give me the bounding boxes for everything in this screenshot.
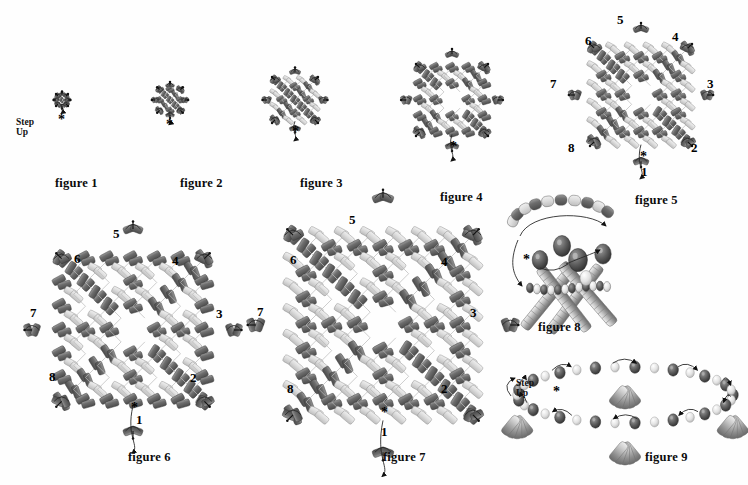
- number-label-8-figure-7: 8: [287, 381, 294, 397]
- number-label-3-figure-6: 3: [216, 306, 223, 322]
- number-label-4-figure-5: 4: [672, 29, 679, 45]
- number-label-1-figure-5: 1: [641, 164, 648, 180]
- number-label-7-figure-5: 7: [550, 76, 557, 92]
- number-label-2-figure-5: 2: [691, 140, 698, 156]
- star-marker-figure-5: *: [640, 153, 647, 161]
- beadwork-illustrations: [0, 0, 748, 485]
- number-label-5-figure-5: 5: [617, 12, 624, 28]
- number-label-3-figure-5: 3: [707, 76, 714, 92]
- caption-figure-9: figure 9: [645, 450, 688, 465]
- number-label-2-figure-6: 2: [190, 370, 197, 386]
- caption-figure-3: figure 3: [300, 176, 343, 191]
- caption-figure-7: figure 7: [383, 450, 426, 465]
- star-marker-figure-6: *: [131, 404, 138, 412]
- number-label-2-figure-7: 2: [441, 381, 448, 397]
- star-marker-figure-4: *: [450, 143, 457, 151]
- caption-figure-5: figure 5: [635, 193, 678, 208]
- art-figure-9: [500, 359, 748, 465]
- number-label-4-figure-7: 4: [441, 254, 448, 270]
- number-label-6-figure-5: 6: [585, 33, 592, 49]
- number-label-8-figure-5: 8: [568, 140, 575, 156]
- caption-figure-2: figure 2: [180, 176, 223, 191]
- number-label-3-figure-7: 3: [470, 305, 477, 321]
- star-marker-figure-1: *: [58, 116, 65, 124]
- art-figure-6: [23, 220, 243, 453]
- caption-figure-8: figure 8: [538, 320, 581, 335]
- number-label-6-figure-6: 6: [74, 251, 81, 267]
- caption-figure-6: figure 6: [128, 450, 171, 465]
- number-label-7-figure-7: 7: [257, 304, 264, 320]
- star-marker-figure-3: *: [292, 128, 299, 136]
- caption-figure-1: figure 1: [55, 176, 98, 191]
- star-marker-figure-9: *: [553, 388, 560, 396]
- number-label-6-figure-7: 6: [290, 252, 297, 268]
- number-label-8-figure-6: 8: [49, 369, 56, 385]
- number-label-1-figure-7: 1: [381, 424, 388, 440]
- number-label-5-figure-7: 5: [349, 212, 356, 228]
- caption-figure-4: figure 4: [440, 190, 483, 205]
- step-up-label-figure-9: Step Up: [516, 379, 534, 398]
- star-marker-figure-2: *: [166, 121, 173, 129]
- art-figure-1: [52, 90, 71, 113]
- star-marker-figure-7: *: [381, 409, 388, 417]
- number-label-5-figure-6: 5: [113, 226, 120, 242]
- number-label-4-figure-6: 4: [172, 253, 179, 269]
- step-up-label-figure-1: Step Up: [16, 118, 34, 137]
- star-marker-figure-8: *: [523, 256, 530, 264]
- number-label-7-figure-6: 7: [30, 305, 37, 321]
- diagram-sheet: figure 1 figure 2 figure 3 figure 4 figu…: [0, 0, 748, 485]
